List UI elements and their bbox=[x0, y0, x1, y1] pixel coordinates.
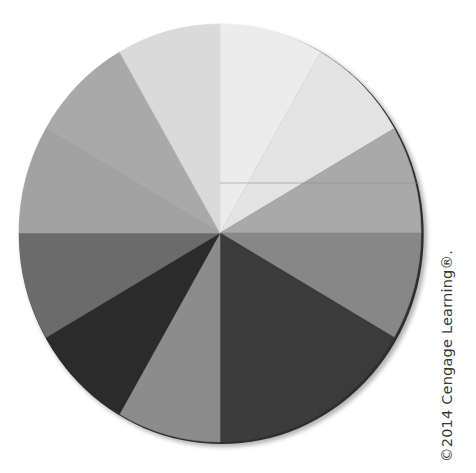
wheel-segments bbox=[19, 24, 421, 442]
value-wheel bbox=[0, 0, 476, 473]
copyright-notice: ©2014 Cengage Learning®. bbox=[439, 250, 455, 462]
